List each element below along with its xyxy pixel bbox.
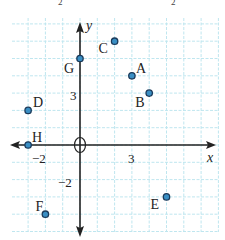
tick-x-neg2: −2 (32, 151, 46, 166)
point-label-e: E (151, 197, 160, 212)
point-e (163, 194, 169, 200)
point-label-f: F (35, 199, 43, 214)
point-g (77, 55, 83, 61)
point-label-d: D (33, 95, 43, 110)
point-label-h: H (32, 130, 42, 145)
point-a (129, 73, 135, 79)
tick-x-3: 3 (128, 151, 135, 166)
point-d (25, 107, 31, 113)
header-fragment-left: 2 (58, 0, 63, 7)
point-label-a: A (136, 61, 147, 76)
point-label-g: G (64, 61, 74, 76)
x-axis-label: x (206, 150, 214, 165)
point-b (146, 90, 152, 96)
point-label-b: B (135, 95, 144, 110)
y-axis-label: y (84, 18, 93, 33)
point-h (25, 142, 31, 148)
header-fragment-right: 2 (171, 0, 176, 7)
tick-y-neg2: −2 (58, 175, 72, 190)
tick-y-3: 3 (70, 88, 77, 103)
point-label-c: C (99, 41, 108, 56)
point-c (111, 38, 117, 44)
coordinate-plane: 2 2 y x 3 −2 −2 3 ABCDEFGH (0, 0, 225, 240)
